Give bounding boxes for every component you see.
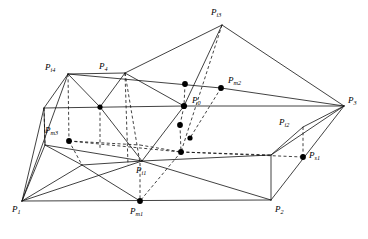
dot-at-Pm2: [218, 85, 224, 91]
vertex-label-P3: P3: [348, 96, 357, 105]
dot-at-P0: [181, 103, 187, 109]
edge-J-Pi2: [271, 127, 303, 155]
label-sub-Pi1: i1: [142, 169, 147, 176]
edge-hidden-Pi3-G: [181, 25, 222, 152]
label-base-Pm1: P: [130, 206, 136, 216]
edge-Pi4-B: [68, 74, 100, 107]
label-sub-P2: 2: [281, 208, 284, 215]
edge-base-P1-P2: [22, 200, 271, 201]
label-base-Ps1: P: [309, 150, 315, 160]
edge-A-P0: [44, 106, 184, 108]
dot-at-Pm1: [137, 198, 143, 204]
label-sub-Pi3: i3: [217, 11, 222, 18]
edge-Pi4-A: [44, 74, 68, 108]
dot-at-D: [182, 81, 188, 87]
edge-H-Pm1: [82, 165, 140, 201]
vertex-label-P1: P1: [12, 205, 21, 214]
label-base-Pi2: P: [279, 117, 285, 127]
dashed-edge-group: [44, 25, 303, 201]
dot-at-F: [187, 135, 192, 140]
label-sub-Pm1: m1: [136, 210, 144, 217]
label-base-P3: P: [348, 95, 354, 105]
label-sub-Pm2: m2: [234, 79, 242, 86]
edge-P1-H: [22, 165, 82, 201]
dot-at-Ps1: [300, 154, 306, 160]
label-sub-P4: 4: [105, 65, 108, 72]
label-base-Pi3: P: [211, 7, 217, 17]
edge-I-P0: [142, 106, 184, 161]
dot-at-B: [97, 104, 102, 109]
vertex-label-Pm3: Pm3: [45, 126, 58, 135]
vertex-label-Pi3: Pi3: [211, 8, 221, 17]
edge-Pi2-P3: [303, 106, 344, 127]
vertex-label-Pm1: Pm1: [130, 207, 143, 216]
edge-hidden-Pi4-Pm3: [68, 74, 69, 141]
edge-hidden-E-G: [180, 125, 181, 152]
label-base-P0: P: [192, 95, 198, 105]
edge-Pi4-P4: [68, 73, 125, 74]
dot-at-G: [178, 149, 184, 155]
label-base-Pm2: P: [228, 75, 234, 85]
wireframe-svg: [0, 0, 368, 239]
label-base-Pi1: P: [136, 165, 142, 175]
edge-hidden-Pm3-G: [69, 141, 181, 152]
edge-P1-I: [22, 161, 142, 201]
vertex-label-Ps1: Ps1: [309, 151, 320, 160]
solid-edge-group: [22, 25, 344, 201]
label-sub-P0: 0: [198, 99, 201, 106]
edge-I-Pm1-lower: [142, 161, 271, 200]
edge-Pm2-P3: [221, 88, 344, 106]
label-base-P1: P: [12, 204, 18, 214]
vertex-label-Pi4: Pi4: [45, 63, 55, 72]
edge-J-P3: [271, 106, 344, 155]
label-sub-P3: 3: [354, 99, 357, 106]
vertex-label-Pi1: Pi1: [136, 166, 146, 175]
edge-B-I: [100, 107, 142, 161]
edge-hidden-D-P0: [184, 84, 185, 106]
label-sub-Pi2: i2: [285, 121, 290, 128]
vertex-label-Pi2: Pi2: [279, 118, 289, 127]
edge-P4-Pi3: [125, 25, 222, 73]
edge-Pi3-P3: [222, 25, 344, 106]
edge-Pi3-P0-solid: [184, 25, 222, 106]
label-base-P4: P: [99, 61, 105, 71]
vertex-label-P0: P0: [192, 96, 201, 105]
label-base-P2: P: [275, 204, 281, 214]
label-sub-Pm3: m3: [51, 129, 59, 136]
vertex-label-P2: P2: [275, 205, 284, 214]
label-sub-Ps1: s1: [315, 154, 321, 161]
label-base-Pi4: P: [45, 62, 51, 72]
label-sub-P1: 1: [18, 208, 21, 215]
edge-hidden-Pm3-Ps1-base: [69, 141, 140, 145]
vertex-label-Pm2: Pm2: [228, 76, 241, 85]
label-sub-Pi4: i4: [51, 66, 56, 73]
dot-at-E: [177, 122, 183, 128]
dot-at-Pm3: [66, 138, 72, 144]
geometric-diagram-figure: P1 P2 P3 P4 Pi1 Pi2 Pi3 Pi4 Pm1 Pm2 Pm3 …: [0, 0, 368, 239]
edge-I-J: [142, 155, 271, 161]
label-base-Pm3: P: [45, 125, 51, 135]
edge-hidden-Pi1-vert: [125, 73, 128, 165]
vertex-label-P4: P4: [99, 62, 108, 71]
edge-hidden-span-right: [181, 152, 271, 155]
edge-P4-P0: [125, 73, 184, 106]
